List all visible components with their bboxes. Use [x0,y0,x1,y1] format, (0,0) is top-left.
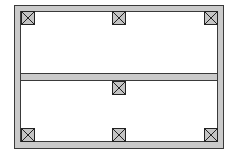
column-top-right [205,12,218,25]
column-top-left [22,12,35,25]
structural-plan [0,0,233,155]
middle-beam-rect [21,74,218,81]
column-bottom-center [113,129,126,142]
column-middle-center [113,82,126,95]
column-bottom-left [22,129,35,142]
column-bottom-right [205,129,218,142]
middle-beam [21,74,218,81]
column-top-center [113,12,126,25]
